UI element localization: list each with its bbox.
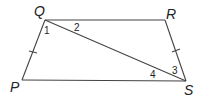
vertex-label-Q: Q — [34, 3, 45, 19]
trapezoid-diagram: Q R S P 1 2 3 4 — [0, 0, 205, 98]
angle-label-1: 1 — [44, 25, 50, 36]
segment-SP — [22, 80, 186, 81]
vertex-label-P: P — [10, 79, 20, 95]
vertex-label-R: R — [166, 6, 176, 22]
vertex-label-S: S — [184, 82, 194, 98]
angle-label-3: 3 — [172, 65, 178, 76]
angle-label-2: 2 — [74, 22, 80, 33]
angle-label-4: 4 — [150, 69, 156, 80]
segment-PQ — [22, 20, 45, 80]
diagonal-QS — [45, 20, 186, 81]
